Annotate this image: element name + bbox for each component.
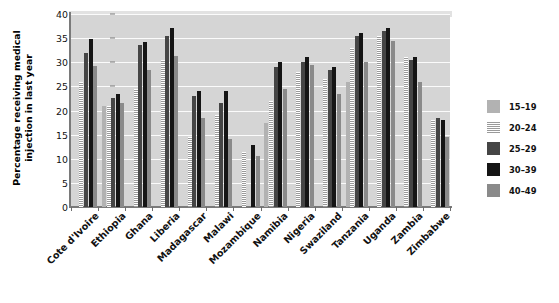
bar <box>138 45 142 207</box>
bar <box>418 82 422 207</box>
bar-group <box>75 14 97 207</box>
legend-item: 25–29 <box>487 138 557 159</box>
bar <box>328 70 332 208</box>
legend-swatch-15-19 <box>487 100 500 113</box>
bar-group <box>292 14 314 207</box>
bar <box>188 137 192 207</box>
bar <box>201 118 205 207</box>
bar <box>310 65 314 207</box>
bar <box>107 106 111 207</box>
legend: 15–1920–2425–2930–3940–49 <box>487 96 557 201</box>
bar <box>305 57 309 207</box>
x-axis-tick-mark <box>152 207 153 211</box>
x-axis-tick-mark <box>342 207 343 211</box>
legend-swatch-20-24 <box>487 121 500 134</box>
bar <box>215 115 219 207</box>
bar <box>93 66 97 207</box>
bar <box>332 67 336 207</box>
y-axis-tick-label: 25 <box>46 81 68 92</box>
bar <box>192 96 196 207</box>
x-axis-tick-mark <box>125 207 126 211</box>
bar <box>386 28 390 207</box>
y-axis-title-line-2: injection in last year <box>23 30 35 186</box>
bar <box>89 39 93 207</box>
bar-group <box>373 14 395 207</box>
bar <box>116 94 120 207</box>
x-axis-tick-mark <box>261 207 262 211</box>
x-axis-tick-mark <box>315 207 316 211</box>
bar-group <box>210 14 232 207</box>
bar <box>382 31 386 207</box>
legend-label: 40–49 <box>509 186 537 196</box>
bar <box>350 48 354 207</box>
legend-label: 25–29 <box>509 144 537 154</box>
bar-group <box>156 14 178 207</box>
x-axis-tick-mark <box>233 207 234 211</box>
bar <box>359 33 363 207</box>
bar <box>413 57 417 207</box>
bar-group <box>427 14 449 207</box>
bar <box>278 62 282 207</box>
bar <box>391 41 395 207</box>
bar <box>242 152 246 207</box>
bar-group <box>102 14 124 207</box>
bar <box>219 103 223 207</box>
bar <box>143 42 147 207</box>
bar <box>323 79 327 207</box>
bar-group <box>264 14 286 207</box>
bar <box>111 98 115 207</box>
y-axis-line <box>69 12 71 208</box>
bar <box>170 28 174 207</box>
bar <box>165 36 169 207</box>
bar <box>404 57 408 207</box>
bar-group <box>346 14 368 207</box>
bar <box>436 118 440 207</box>
x-axis-tick-mark <box>369 207 370 211</box>
bar <box>296 72 300 207</box>
y-axis-tick-label: 40 <box>46 9 68 20</box>
x-axis-tick-mark <box>288 207 289 211</box>
x-axis-tick-mark <box>423 207 424 211</box>
bar <box>445 137 449 207</box>
x-axis-tick-mark <box>450 207 451 211</box>
bar <box>224 91 228 207</box>
bar <box>355 36 359 207</box>
bar <box>274 67 278 207</box>
y-axis-title-line-1: Percentage receiving medical <box>11 30 23 186</box>
bar-group <box>183 14 205 207</box>
y-axis-tick-label: 15 <box>46 129 68 140</box>
bar <box>228 139 232 208</box>
bar <box>256 156 260 207</box>
bar <box>147 70 151 207</box>
bar <box>264 123 268 207</box>
bar <box>84 53 88 207</box>
legend-label: 20–24 <box>509 123 537 133</box>
x-axis-tick-mark <box>179 207 180 211</box>
legend-item: 15–19 <box>487 96 557 117</box>
bar <box>301 62 305 207</box>
bar-group <box>129 14 151 207</box>
legend-item: 40–49 <box>487 180 557 201</box>
y-axis-tick-label: 10 <box>46 153 68 164</box>
bar <box>337 94 341 207</box>
y-axis-tick-label: 35 <box>46 33 68 44</box>
bar <box>161 60 165 207</box>
y-axis-tick-label: 5 <box>46 177 68 188</box>
y-axis-tick-label: 20 <box>46 105 68 116</box>
legend-item: 30–39 <box>487 159 557 180</box>
x-axis-tick-mark <box>396 207 397 211</box>
bar <box>364 62 368 207</box>
bar-group <box>319 14 341 207</box>
bar <box>251 145 255 207</box>
x-axis-tick-mark <box>98 207 99 211</box>
legend-swatch-25-29 <box>487 142 500 155</box>
legend-label: 30–39 <box>509 165 537 175</box>
bar <box>79 82 83 207</box>
bar <box>174 56 178 207</box>
bar <box>269 101 273 207</box>
bar <box>283 89 287 207</box>
x-axis-labels: Cote d'IvoireEthiopiaGhanaLiberiaMadagas… <box>0 206 470 303</box>
bar <box>134 89 138 207</box>
bar <box>409 60 413 207</box>
legend-swatch-40-49 <box>487 184 500 197</box>
